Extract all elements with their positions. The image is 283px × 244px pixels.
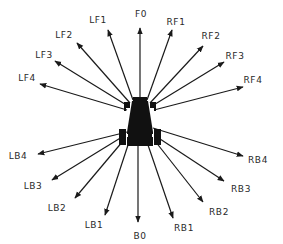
front-right-bracket-icon bbox=[150, 102, 156, 111]
label-lb4: LB4 bbox=[9, 152, 28, 161]
label-rf4: RF4 bbox=[244, 76, 263, 85]
arrow-rb2 bbox=[155, 141, 203, 202]
arrow-rf1 bbox=[147, 30, 172, 100]
robot-direction-diagram bbox=[0, 0, 283, 244]
label-rb2: RB2 bbox=[209, 208, 229, 217]
arrow-rf2 bbox=[150, 46, 203, 103]
label-rf3: RF3 bbox=[226, 52, 245, 61]
label-lf3: LF3 bbox=[35, 51, 53, 60]
arrow-lb4 bbox=[38, 132, 127, 154]
arrow-rb4 bbox=[153, 128, 243, 156]
robot-body bbox=[127, 101, 153, 146]
rear-right-wheel-icon bbox=[154, 129, 161, 145]
label-lf1: LF1 bbox=[89, 16, 107, 25]
arrow-rb1 bbox=[148, 145, 173, 218]
label-rf2: RF2 bbox=[202, 32, 221, 41]
label-rb4: RB4 bbox=[248, 156, 268, 165]
arrow-lb1 bbox=[105, 145, 128, 215]
rear-left-wheel-icon bbox=[119, 129, 126, 145]
label-b0: B0 bbox=[133, 232, 146, 241]
label-f0: F0 bbox=[135, 10, 147, 19]
arrow-rf4 bbox=[154, 87, 243, 110]
label-rb3: RB3 bbox=[231, 185, 251, 194]
label-lf4: LF4 bbox=[18, 74, 36, 83]
label-rb1: RB1 bbox=[174, 224, 194, 233]
arrow-lf2 bbox=[77, 43, 130, 103]
arrow-lb3 bbox=[52, 137, 122, 180]
label-lb2: LB2 bbox=[48, 204, 67, 213]
label-rf1: RF1 bbox=[167, 18, 186, 27]
label-lb3: LB3 bbox=[24, 182, 43, 191]
robot-icon bbox=[119, 97, 161, 146]
arrow-lf1 bbox=[108, 30, 133, 100]
label-lf2: LF2 bbox=[55, 31, 73, 40]
arrow-rb3 bbox=[157, 137, 224, 181]
label-lb1: LB1 bbox=[85, 221, 104, 230]
arrow-lb2 bbox=[75, 141, 123, 198]
arrow-rf3 bbox=[152, 62, 224, 106]
